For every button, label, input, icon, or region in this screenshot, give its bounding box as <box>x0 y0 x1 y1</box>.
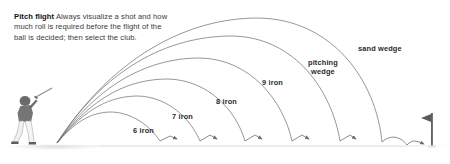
golfer-icon <box>11 88 52 145</box>
label-6-iron: 6 iron <box>133 126 154 135</box>
golfer-front-leg <box>25 121 34 144</box>
golf-club-shaft <box>36 88 52 97</box>
flagstick-icon <box>421 113 436 148</box>
roll-arrow-7-iron <box>200 135 217 141</box>
golfer-back-shoe <box>11 142 19 145</box>
label-7-iron: 7 iron <box>172 112 193 121</box>
trajectory-9-iron <box>57 58 292 143</box>
roll-arrow-8-iron <box>245 135 262 141</box>
label-8-iron: 8 iron <box>216 97 237 106</box>
label-pitching-wedge: pitching wedge <box>308 58 338 76</box>
flag-banner <box>421 114 431 122</box>
label-sand-wedge: sand wedge <box>358 44 402 53</box>
roll-arrow-sand-wedge <box>382 137 424 145</box>
caption-lead: Pitch flight <box>14 12 54 21</box>
label-pitching-wedge-line2: wedge <box>308 67 338 76</box>
golfer-front-shoe <box>29 142 37 145</box>
flag-pole <box>431 113 433 146</box>
golfer-back-leg <box>13 121 24 143</box>
roll-arrow-6-iron <box>160 136 177 141</box>
golfer-shadow <box>9 144 101 150</box>
label-pitching-wedge-line1: pitching <box>308 58 338 67</box>
roll-arrow-pitching-wedge <box>340 135 356 141</box>
caption-block: Pitch flight Always visualize a shot and… <box>14 12 174 43</box>
pitch-flight-diagram: Pitch flight Always visualize a shot and… <box>0 0 450 164</box>
roll-arrow-9-iron <box>292 135 309 141</box>
golfer-head <box>20 96 31 106</box>
label-9-iron: 9 iron <box>262 78 283 87</box>
flag-base-shadow <box>428 145 436 147</box>
